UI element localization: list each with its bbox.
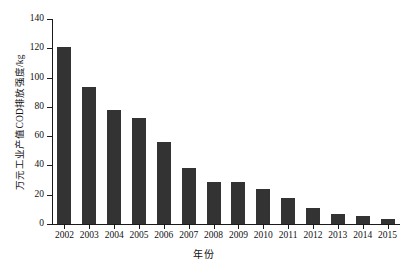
x-axis-tick-label: 2009 (229, 231, 248, 241)
x-axis-tick-label: 2008 (204, 231, 223, 241)
y-axis-tick-label: 20 (35, 190, 45, 200)
x-axis-tick (313, 225, 314, 229)
bar-2005 (132, 118, 146, 224)
x-axis-tick-label: 2011 (279, 231, 298, 241)
x-axis-tick-label: 2002 (55, 231, 74, 241)
bar-2013 (331, 214, 345, 224)
x-axis-tick (338, 225, 339, 229)
x-axis-tick-label: 2005 (130, 231, 149, 241)
x-axis-tick (139, 225, 140, 229)
x-axis-tick (363, 225, 364, 229)
y-axis-tick-label: 100 (30, 73, 44, 83)
x-axis-tick (189, 225, 190, 229)
bar-2002 (57, 47, 71, 224)
y-axis-tick-label: 0 (39, 219, 44, 229)
x-axis-tick-label: 2003 (80, 231, 99, 241)
x-axis-title: 年份 (0, 246, 407, 261)
y-axis-tick-label: 80 (35, 102, 45, 112)
bar-2015 (381, 219, 395, 224)
x-axis-tick (388, 225, 389, 229)
y-axis-tick-label: 120 (30, 43, 44, 53)
y-axis-tick-label: 40 (35, 160, 45, 170)
bar-2014 (356, 216, 370, 224)
x-axis-tick-label: 2006 (154, 231, 173, 241)
bar-2011 (281, 198, 295, 224)
x-axis-tick (214, 225, 215, 229)
y-axis-tick-label: 60 (35, 131, 45, 141)
x-axis-tick (114, 225, 115, 229)
x-axis-tick (64, 225, 65, 229)
bar-2006 (157, 142, 171, 224)
x-axis-tick-label: 2013 (328, 231, 347, 241)
x-axis-spine (52, 224, 400, 225)
x-axis-tick-label: 2014 (353, 231, 372, 241)
x-axis-tick (89, 225, 90, 229)
x-axis-tick (164, 225, 165, 229)
plot-area (52, 19, 400, 224)
y-axis-tick (47, 224, 52, 225)
x-axis-tick (263, 225, 264, 229)
bar-2009 (231, 182, 245, 224)
x-axis-tick (288, 225, 289, 229)
bar-2007 (182, 168, 196, 224)
bar-chart-figure: 万元工业产值COD排放强度/kg 020406080100120140 2002… (0, 0, 407, 273)
y-axis-title: 万元工业产值COD排放强度/kg (12, 19, 26, 224)
bar-2004 (107, 110, 121, 224)
bar-2010 (256, 189, 270, 224)
bar-2012 (306, 208, 320, 224)
bar-2008 (207, 182, 221, 224)
x-axis-tick-label: 2015 (378, 231, 397, 241)
x-axis-tick (238, 225, 239, 229)
x-axis-tick-label: 2010 (254, 231, 273, 241)
y-axis-tick-label: 140 (30, 14, 44, 24)
bar-2003 (82, 87, 96, 224)
y-axis-title-label: 万元工业产值COD排放强度/kg (12, 54, 26, 189)
x-axis-tick-label: 2004 (105, 231, 124, 241)
x-axis-tick-label: 2012 (304, 231, 323, 241)
x-axis-tick-label: 2007 (179, 231, 198, 241)
